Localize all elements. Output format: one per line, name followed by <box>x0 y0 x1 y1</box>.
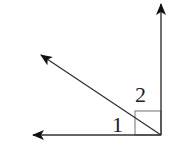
angle-1-label: 1 <box>112 112 123 137</box>
right-angle-marker <box>135 111 161 135</box>
angle-diagram: 1 2 <box>0 0 186 150</box>
angle-2-label: 2 <box>135 82 146 107</box>
